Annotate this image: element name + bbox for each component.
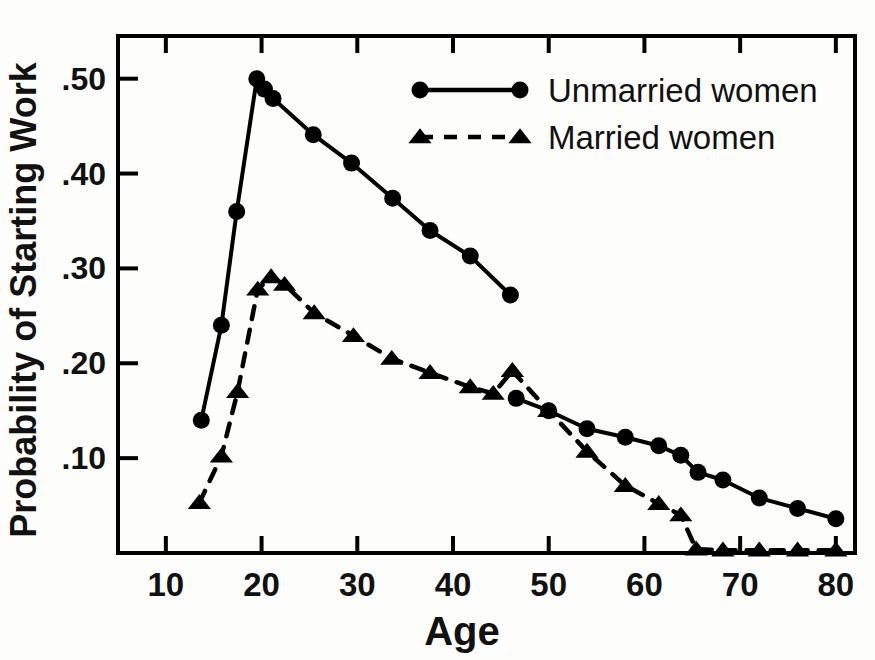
- data-point-marker: [305, 126, 322, 143]
- y-tick-label: .20: [62, 345, 106, 381]
- legend-label: Unmarried women: [548, 72, 818, 109]
- data-point-marker: [827, 510, 844, 527]
- x-tick-label: 20: [243, 566, 280, 603]
- data-point-marker: [422, 222, 439, 239]
- data-point-marker: [512, 82, 529, 99]
- x-tick-label: 50: [530, 566, 567, 603]
- y-tick-label: .40: [62, 156, 106, 192]
- x-axis-title: Age: [424, 609, 500, 653]
- data-point-marker: [714, 471, 731, 488]
- probability-of-starting-work-chart: 1020304050607080 .10.20.30.40.50 Unmarri…: [0, 0, 875, 660]
- x-tick-label: 10: [147, 566, 184, 603]
- data-point-marker: [193, 412, 210, 429]
- data-point-marker: [462, 248, 479, 265]
- x-tick-label: 70: [722, 566, 759, 603]
- data-point-marker: [412, 82, 429, 99]
- y-tick-label: .50: [62, 61, 106, 97]
- x-tick-label: 80: [817, 566, 854, 603]
- y-tick-label: .30: [62, 250, 106, 286]
- x-tick-label: 40: [435, 566, 472, 603]
- data-point-marker: [789, 500, 806, 517]
- x-tick-label: 30: [339, 566, 376, 603]
- data-point-marker: [617, 429, 634, 446]
- data-point-marker: [265, 90, 282, 107]
- data-point-marker: [508, 390, 525, 407]
- x-tick-label: 60: [626, 566, 663, 603]
- data-point-marker: [579, 420, 596, 437]
- data-point-marker: [672, 447, 689, 464]
- chart-page: 1020304050607080 .10.20.30.40.50 Unmarri…: [0, 0, 875, 660]
- data-point-marker: [343, 155, 360, 172]
- y-axis-title: Probability of Starting Work: [3, 61, 44, 537]
- data-point-marker: [213, 317, 230, 334]
- data-point-marker: [384, 190, 401, 207]
- y-tick-label: .10: [62, 440, 106, 476]
- data-point-marker: [650, 437, 667, 454]
- data-point-marker: [228, 203, 245, 220]
- data-point-marker: [690, 464, 707, 481]
- data-point-marker: [751, 489, 768, 506]
- data-point-marker: [502, 286, 519, 303]
- legend-label: Married women: [548, 119, 775, 156]
